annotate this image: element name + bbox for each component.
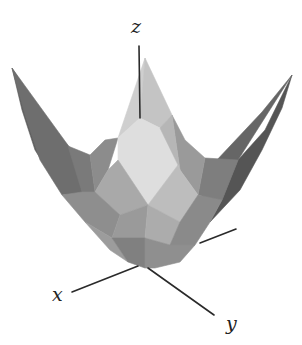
paraboloid-surface: [12, 58, 292, 268]
y-axis-label: y: [225, 312, 237, 334]
x-axis-line: [72, 266, 138, 292]
z-axis-label: z: [130, 15, 142, 37]
z-axis-line: [139, 46, 140, 118]
left-wing-inner-facet: [12, 68, 82, 195]
paraboloid-diagram: z x y: [0, 0, 302, 345]
back-peak-right-facet: [140, 58, 172, 128]
y-axis-line: [148, 268, 214, 315]
x-axis-label: x: [52, 283, 63, 305]
back-axis-line: [200, 229, 236, 243]
